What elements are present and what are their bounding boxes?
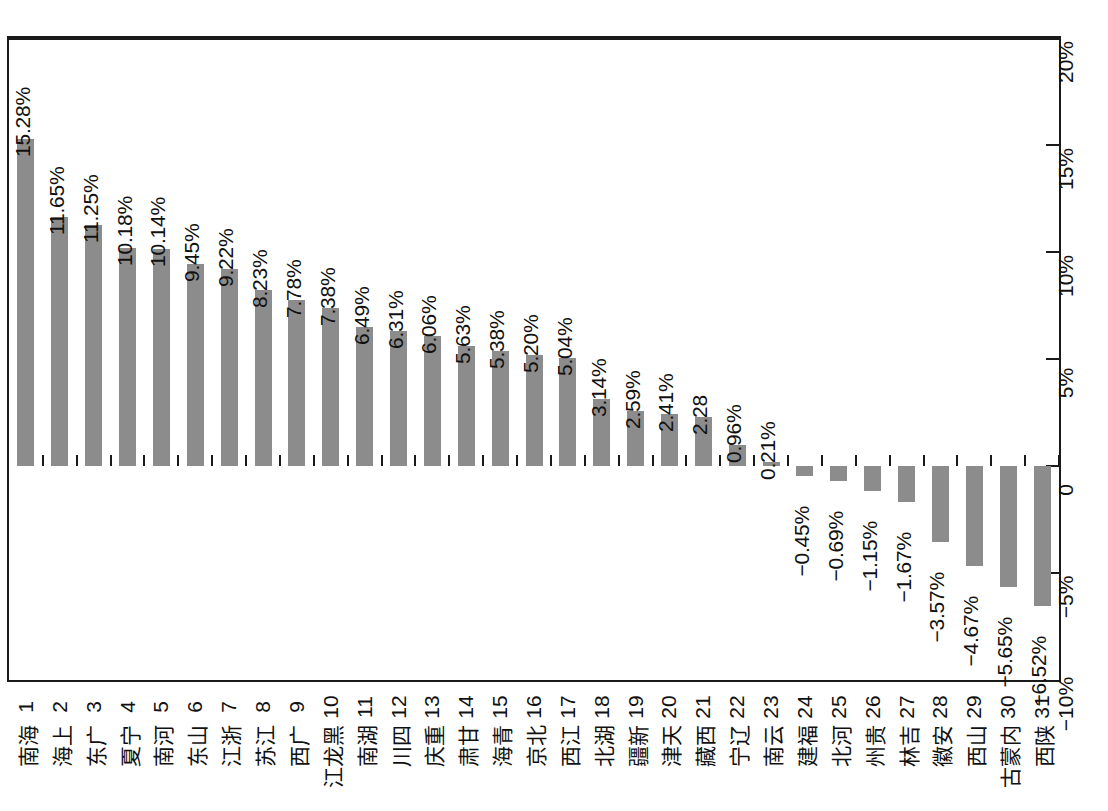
category-column: 25河北 [822, 690, 856, 811]
category-name-label: 山西 [957, 726, 991, 768]
data-label: 2.28 [688, 395, 712, 435]
data-label: 2.59% [621, 370, 645, 429]
category-rank-label: 20 [652, 690, 686, 724]
bar-chart: 15.28%11.65%11.25%10.18%10.14%9.45%9.22%… [0, 0, 1108, 811]
zero-baseline [9, 38, 1059, 40]
category-column: 14甘肃 [449, 690, 483, 811]
category-rank-label: 6 [178, 690, 212, 724]
bar [1000, 466, 1017, 587]
category-axis-tick [685, 455, 687, 466]
category-name-label: 吉林 [890, 726, 924, 768]
category-column: 21西藏 [686, 690, 720, 811]
category-axis-tick [855, 455, 857, 466]
category-axis-tick [516, 455, 518, 466]
bar [424, 336, 441, 466]
bar [187, 264, 204, 466]
category-axis-tick [1024, 455, 1026, 466]
value-axis-label: 15% [1054, 148, 1078, 190]
bar [356, 327, 373, 466]
category-column: 26贵州 [856, 690, 890, 811]
data-label: 11.25% [79, 175, 103, 243]
bar [221, 269, 238, 466]
category-rank-label: 5 [144, 690, 178, 724]
category-name-label: 天津 [652, 726, 686, 768]
data-label: 2.41% [654, 374, 678, 433]
category-column: 22辽宁 [720, 690, 754, 811]
category-column: 15青海 [483, 690, 517, 811]
data-label: 9.45% [180, 223, 204, 282]
category-name-label: 重庆 [415, 726, 449, 768]
data-label: 3.14% [587, 358, 611, 417]
data-label: 9.22% [214, 228, 238, 287]
category-rank-label: 17 [551, 690, 585, 724]
category-rank-label: 9 [280, 690, 314, 724]
category-name-label: 陕西 [1025, 726, 1059, 768]
value-axis-tick [1046, 358, 1059, 360]
category-column: 19新疆 [619, 690, 653, 811]
data-label: 10.14% [146, 197, 170, 267]
category-axis-tick [313, 455, 315, 466]
category-axis-tick [1058, 455, 1060, 466]
category-column: 17江西 [551, 690, 585, 811]
category-rank-label: 31 [1025, 690, 1059, 724]
category-rank-label: 14 [449, 690, 483, 724]
bar [1034, 466, 1051, 606]
category-axis-tick [821, 455, 823, 466]
category-name-label: 黑龙江 [314, 726, 348, 789]
category-column: 28安徽 [923, 690, 957, 811]
category-rank-label: 23 [754, 690, 788, 724]
category-rank-label: 1 [9, 690, 43, 724]
bar [85, 225, 102, 466]
category-axis-tick [245, 455, 247, 466]
category-name-label: 新疆 [619, 726, 653, 768]
bar [51, 217, 68, 466]
data-label: −1.15% [858, 521, 882, 592]
data-label: 7.78% [282, 259, 306, 318]
category-axis-tick [584, 455, 586, 466]
bar [966, 466, 983, 566]
value-axis-label: −5% [1054, 576, 1078, 619]
category-rank-label: 28 [923, 690, 957, 724]
bar [796, 466, 813, 476]
value-axis-label: 20% [1054, 41, 1078, 83]
bar [390, 331, 407, 466]
value-axis-label: 5% [1054, 368, 1078, 398]
category-rank-label: 30 [991, 690, 1025, 724]
category-column: 7浙江 [212, 690, 246, 811]
category-rank-label: 25 [822, 690, 856, 724]
data-label: −5.65% [993, 617, 1017, 688]
category-rank-label: 19 [619, 690, 653, 724]
data-label: −0.45% [790, 506, 814, 577]
category-column: 3广东 [77, 690, 111, 811]
bar [288, 300, 305, 466]
category-rank-label: 4 [111, 690, 145, 724]
category-column: 29山西 [957, 690, 991, 811]
category-column: 9广西 [280, 690, 314, 811]
data-label: 8.23% [248, 249, 272, 308]
category-column: 30内蒙古 [991, 690, 1025, 811]
category-axis-tick [279, 455, 281, 466]
category-column: 18湖北 [585, 690, 619, 811]
data-label: 5.38% [485, 310, 509, 369]
category-column: 13重庆 [415, 690, 449, 811]
category-axis-tick [177, 455, 179, 466]
category-name-label: 湖北 [585, 726, 619, 768]
data-label: 0.96% [722, 405, 746, 464]
category-name-label: 海南 [9, 726, 43, 768]
category-rank-label: 22 [720, 690, 754, 724]
data-label: 5.63% [451, 305, 475, 364]
data-label: −1.67% [892, 532, 916, 603]
category-column: 11湖南 [348, 690, 382, 811]
category-column: 23云南 [754, 690, 788, 811]
category-axis: 1海南2上海3广东4宁夏5河南6山东7浙江8江苏9广西10黑龙江11湖南12四川… [9, 690, 1059, 811]
bar [864, 466, 881, 491]
bar [17, 139, 34, 466]
category-column: 5河南 [144, 690, 178, 811]
category-name-label: 山东 [178, 726, 212, 768]
category-rank-label: 12 [382, 690, 416, 724]
data-label: −0.69% [824, 511, 848, 582]
value-axis-tick [1046, 251, 1059, 253]
category-rank-label: 2 [43, 690, 77, 724]
category-column: 1海南 [9, 690, 43, 811]
category-rank-label: 26 [856, 690, 890, 724]
